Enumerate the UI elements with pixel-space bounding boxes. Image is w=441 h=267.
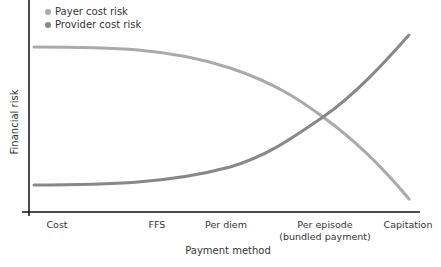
legend-item-provider: Provider cost risk [45, 18, 141, 31]
legend-label: Provider cost risk [55, 18, 141, 31]
payer-cost-risk-line [34, 47, 409, 199]
chart-legend: Payer cost risk Provider cost risk [45, 5, 141, 31]
y-axis-label: Financial risk [9, 90, 20, 155]
x-axis-label: Payment method [185, 245, 271, 256]
x-tick-cost: Cost [46, 219, 67, 231]
x-tick-per-episode: Per episode (bundled payment) [279, 219, 370, 243]
chart-container: Payer cost risk Provider cost risk Cost … [0, 0, 441, 267]
legend-item-payer: Payer cost risk [45, 5, 141, 18]
x-tick-ffs: FFS [149, 219, 166, 231]
provider-cost-risk-line [34, 35, 409, 185]
x-tick-capitation: Capitation [384, 219, 433, 231]
legend-dot-icon [45, 9, 51, 15]
legend-label: Payer cost risk [55, 5, 128, 18]
x-tick-per-diem: Per diem [205, 219, 247, 231]
legend-dot-icon [45, 22, 51, 28]
